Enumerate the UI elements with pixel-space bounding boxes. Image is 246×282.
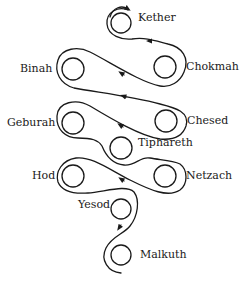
sephirah-kether-label: Kether [138, 12, 176, 23]
sephirah-geburah-circle [62, 112, 84, 134]
sephirah-netzach-circle [154, 165, 176, 187]
flaming-sword-diagram [0, 0, 246, 282]
sephirah-hod-circle [62, 165, 84, 187]
sephirah-chesed-circle [155, 110, 177, 132]
sephirah-hod-label: Hod [32, 170, 55, 181]
sephirah-binah-circle [62, 58, 84, 80]
sephirah-chesed-label: Chesed [187, 115, 228, 126]
sephirah-netzach-label: Netzach [186, 170, 232, 181]
sephirah-malkuth-label: Malkuth [140, 249, 187, 260]
sephirah-binah-label: Binah [20, 63, 52, 74]
sephirah-chokmah-label: Chokmah [186, 61, 239, 72]
sephirah-kether-circle [111, 13, 131, 33]
sephirah-yesod-label: Yesod [78, 199, 110, 210]
sephirah-tiphareth-label: Tiphareth [138, 137, 193, 148]
sephirah-malkuth-circle [111, 245, 131, 265]
sephirah-geburah-label: Geburah [7, 117, 55, 128]
sephirah-chokmah-circle [154, 56, 176, 78]
sephirah-tiphareth-circle [110, 137, 132, 159]
sephirah-yesod-circle [111, 199, 131, 219]
